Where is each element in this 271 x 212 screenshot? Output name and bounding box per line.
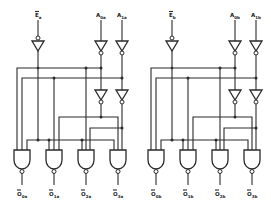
output-label-2b: O2b bbox=[215, 191, 225, 199]
a0-inverter-icon bbox=[95, 41, 107, 51]
output-label-0a: O0a bbox=[17, 191, 27, 199]
nand-gate-1b bbox=[180, 150, 196, 185]
enable-label-a: Ea bbox=[35, 12, 42, 20]
output-label-1b: O1b bbox=[183, 191, 193, 199]
b0-inverter-icon bbox=[229, 41, 241, 51]
output-label-1a: O1a bbox=[49, 191, 59, 199]
enable-buffer-icon bbox=[166, 41, 178, 51]
a0-second-inverter-icon bbox=[95, 90, 107, 100]
input-label-b0: A0b bbox=[230, 12, 240, 20]
nand-gate-0b bbox=[148, 150, 164, 185]
nand-gate-2b bbox=[212, 150, 228, 185]
enable-label-b: Eb bbox=[169, 12, 176, 20]
nand-gate-3a bbox=[110, 150, 126, 185]
input-label-a0: A0a bbox=[96, 12, 106, 20]
enable-buffer-icon bbox=[32, 41, 44, 51]
b0-second-inverter-icon bbox=[229, 90, 241, 100]
nand-gate-2a bbox=[78, 150, 94, 185]
a1-second-inverter-icon bbox=[116, 90, 128, 100]
input-label-b1: A1b bbox=[251, 12, 261, 20]
decoder-section-a: Ea A0a A1a bbox=[14, 12, 128, 199]
output-label-3b: O3b bbox=[247, 191, 257, 199]
decoder-diagram: Ea A0a A1a bbox=[0, 0, 271, 212]
output-label-2a: O2a bbox=[81, 191, 91, 199]
decoder-section-b: Eb A0b A1b bbox=[148, 12, 262, 199]
inverter-bubble bbox=[36, 36, 40, 40]
b1-inverter-icon bbox=[250, 41, 262, 51]
output-label-3a: O3a bbox=[113, 191, 123, 199]
b1-second-inverter-icon bbox=[250, 90, 262, 100]
a1-inverter-icon bbox=[116, 41, 128, 51]
nand-gate-1a bbox=[46, 150, 62, 185]
output-label-0b: O0b bbox=[151, 191, 161, 199]
input-label-a1: A1a bbox=[117, 12, 127, 20]
nand-gate-3b bbox=[244, 150, 260, 185]
nand-gate-0a bbox=[14, 150, 30, 185]
